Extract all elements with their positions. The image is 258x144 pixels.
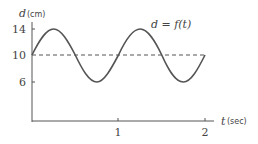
y-tick-label-14: 14: [12, 23, 26, 36]
y-axis-unit: (cm): [27, 10, 45, 19]
x-tick-label-2: 2: [202, 126, 209, 139]
chart: 14 10 6 1 2 d (cm) t (sec) d = f(t): [0, 0, 258, 144]
y-tick-label-10: 10: [12, 49, 26, 62]
y-tick-label-6: 6: [19, 76, 26, 89]
x-tick-label-1: 1: [115, 126, 122, 139]
curve-label: d = f(t): [151, 18, 191, 31]
x-axis-unit: (sec): [227, 117, 247, 126]
y-axis-variable: d: [19, 7, 26, 20]
x-axis-variable: t: [221, 115, 226, 128]
